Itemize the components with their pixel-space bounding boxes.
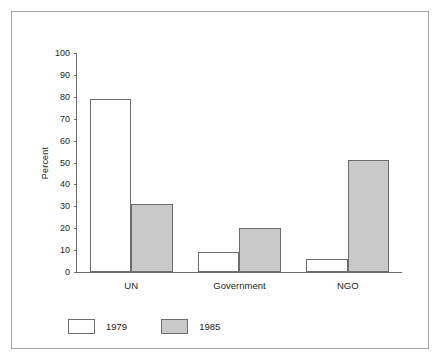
- chart-legend: 19791985: [68, 319, 220, 334]
- bar-group: [294, 53, 402, 272]
- legend-swatch-1985: [161, 319, 188, 334]
- y-axis-tick-label: 50: [60, 158, 70, 167]
- chart-figure: Percent 0102030405060708090100 UNGovernm…: [11, 11, 429, 349]
- y-axis-title: Percent: [38, 53, 52, 273]
- y-axis-tick-label: 70: [60, 114, 70, 123]
- plot-area: 0102030405060708090100 UNGovernmentNGO: [76, 53, 402, 273]
- y-axis-tick-label: 10: [60, 246, 70, 255]
- bar-ngo-1985: [348, 160, 390, 272]
- legend-label: 1979: [106, 321, 127, 332]
- bar-government-1985: [239, 228, 281, 272]
- x-axis-tick-label: Government: [213, 280, 265, 291]
- y-axis-tick-mark: [74, 272, 77, 273]
- y-axis-tick-label: 90: [60, 70, 70, 79]
- legend-item: 1979: [68, 319, 127, 334]
- bar-government-1979: [198, 252, 240, 272]
- legend-item: 1985: [161, 319, 220, 334]
- bar-un-1979: [90, 99, 132, 272]
- y-axis-tick-label: 40: [60, 180, 70, 189]
- bar-group: [77, 53, 185, 272]
- y-axis-tick-label: 30: [60, 202, 70, 211]
- legend-swatch-1979: [68, 319, 95, 334]
- y-axis-tick-label: 20: [60, 224, 70, 233]
- legend-label: 1985: [199, 321, 220, 332]
- x-axis-tick-label: UN: [124, 280, 138, 291]
- y-axis-tick-label: 80: [60, 92, 70, 101]
- y-axis-tick-label: 0: [65, 268, 70, 277]
- x-axis-tick-label: NGO: [337, 280, 359, 291]
- bar-un-1985: [131, 204, 173, 272]
- y-axis-tick-label: 60: [60, 136, 70, 145]
- y-axis-tick-label: 100: [55, 49, 70, 58]
- bar-ngo-1979: [306, 259, 348, 272]
- bar-group: [185, 53, 293, 272]
